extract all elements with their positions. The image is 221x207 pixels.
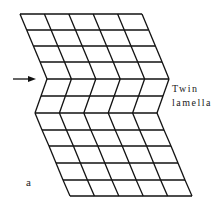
lattice-line [136,180,143,196]
lattice-line [35,113,42,130]
lattice-line [122,146,129,163]
lattice-line [58,46,65,62]
lattice-line [33,46,40,62]
lattice-line [42,130,49,146]
lattice-line [41,79,47,96]
lattice-line [84,96,90,113]
lattice-line [138,62,145,79]
lattice-line [59,96,65,113]
lattice-line [91,130,98,146]
lattice-line [93,14,100,30]
lattice-line [163,79,169,96]
lattice-line [76,30,83,46]
lattice-line [178,163,185,180]
lattice-line [147,146,154,163]
lattice-line [69,14,76,30]
lattice-line [129,163,136,180]
lattice-line [59,113,66,130]
lattice-line [82,46,89,62]
lattice-line [133,113,140,130]
lattice-line [49,146,56,163]
lattice-line [142,14,149,30]
lattice-line [139,79,145,96]
lattice-line [63,180,70,196]
lattice-line [105,163,112,180]
lattice-line [114,79,120,96]
lattice-line [20,14,27,30]
twin-label: Twin [172,83,198,94]
lattice-line [131,46,138,62]
arrow-icon [13,76,36,82]
lattice-line [66,130,73,146]
lattice-line [155,46,162,62]
lattice-line [35,96,41,113]
lattice-line [112,180,119,196]
lattice-line [162,62,169,79]
lattice-line [108,113,115,130]
lattice-line [157,96,163,113]
lattice-line [154,163,161,180]
lattice-line [90,79,96,96]
lattice-line [27,30,34,46]
lattice-line [73,146,80,163]
lattice-line [107,46,114,62]
lattice-line [171,146,178,163]
lattice-line [161,180,168,196]
lattice-line [124,30,131,46]
lattice-line [164,130,171,146]
lattice-line [56,163,63,180]
lattice-line [40,62,47,79]
lattice-line [89,62,96,79]
lattice-line [157,113,164,130]
lattice-grid [20,14,192,196]
lattice-line [185,180,192,196]
lattice-line [98,146,105,163]
lattice-line [84,113,91,130]
lattice-line [140,130,147,146]
lattice-line [51,30,58,46]
lattice-line [65,62,72,79]
lattice-line [100,30,107,46]
twin-lamella-diagram: Twin lamella a [0,0,221,207]
lamella-label: lamella [172,97,212,108]
lattice-line [133,96,139,113]
lattice-line [87,180,94,196]
lattice-line [115,130,122,146]
lattice-line [80,163,87,180]
lattice-line [44,14,51,30]
lattice-line [118,14,125,30]
lattice-line [65,79,71,96]
lattice-line [113,62,120,79]
lattice-line [149,30,156,46]
panel-label: a [26,176,31,188]
lattice-line [108,96,114,113]
